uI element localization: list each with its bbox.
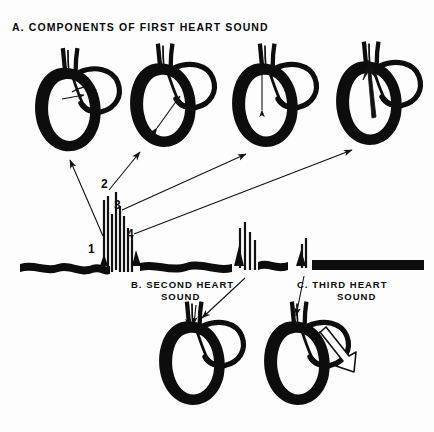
arrow-double-diagonal-icon — [157, 96, 180, 128]
heart-component-3 — [232, 44, 316, 147]
heart-component-2 — [130, 44, 214, 147]
section-c-title-line1: C. THIRD HEART — [297, 279, 388, 290]
connector-2-to-heart-2 — [109, 152, 140, 190]
connector-4-to-heart-4 — [134, 150, 352, 234]
heart-component-1 — [35, 48, 119, 151]
component-label-2: 2 — [101, 177, 108, 191]
figure-canvas: A. COMPONENTS OF FIRST HEART SOUND — [0, 0, 434, 432]
connector-1-to-heart-1 — [70, 160, 103, 236]
phonocardiogram-trace — [20, 192, 424, 274]
heart-component-4 — [336, 42, 420, 145]
section-b-title-line2: SOUND — [161, 291, 200, 302]
section-a-title: A. COMPONENTS OF FIRST HEART SOUND — [12, 21, 269, 33]
heart-sounds-figure: A. COMPONENTS OF FIRST HEART SOUND — [0, 0, 434, 432]
component-label-1: 1 — [88, 242, 95, 256]
connector-3-to-heart-3 — [122, 154, 246, 210]
section-b-title-line1: B. SECOND HEART — [131, 279, 234, 290]
section-c-title-line2: SOUND — [337, 291, 376, 302]
heart-third-sound — [264, 302, 356, 405]
heart-second-sound — [159, 302, 243, 405]
